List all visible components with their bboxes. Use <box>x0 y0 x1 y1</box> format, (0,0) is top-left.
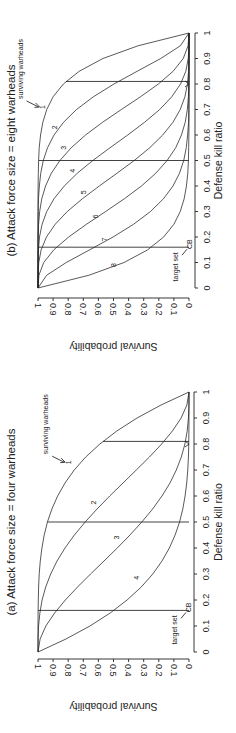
curve-label: 2 <box>51 125 58 129</box>
arrow-icon <box>182 249 187 255</box>
panel-b-curve-labels: 12345678 <box>39 105 117 267</box>
curve-label: 4 <box>69 169 76 173</box>
y-tick-label: 1 <box>33 664 43 669</box>
x-tick-label: 0.6 <box>201 490 211 503</box>
y-tick-label: 0.5 <box>108 664 118 677</box>
panel-b-xlabel: Defense kill ratio <box>212 122 224 200</box>
y-tick-label: 0.2 <box>154 664 164 677</box>
x-tick-label: 0.9 <box>201 412 211 425</box>
y-tick-label: 0.4 <box>123 664 133 677</box>
cb-annotation: CB <box>185 602 192 612</box>
x-tick-label: 1 <box>201 389 211 394</box>
panel-a-annotations: surviving warheadstarget setCB <box>42 394 192 645</box>
panel-b-ylabel: Survival probability <box>69 341 158 353</box>
y-tick-label: 0.1 <box>169 664 179 677</box>
panel-b-eight-warheads: (b) Attack force size = eight warheads D… <box>5 30 224 353</box>
y-tick-label: 0.8 <box>63 303 73 316</box>
x-tick-label: 0.9 <box>202 52 212 65</box>
panel-b-reference-lines <box>38 81 189 247</box>
x-tick-label: 0.3 <box>201 568 211 581</box>
y-tick-label: 0.3 <box>139 303 149 316</box>
x-tick-label: 0.4 <box>201 542 211 555</box>
surviving-warheads-annotation: surviving warheads <box>42 394 50 454</box>
curve-label: 8 <box>110 263 117 267</box>
target-set-annotation: target set <box>171 615 179 644</box>
y-tick-label: 0.6 <box>93 303 103 316</box>
panel-b-x-ticks: 00.10.20.30.40.50.60.70.80.91 <box>195 30 212 290</box>
curve-label: 3 <box>113 536 120 540</box>
panel-a-x-ticks: 00.10.20.30.40.50.60.70.80.91 <box>194 389 211 654</box>
panel-a-title: (a) Attack force size = four warheads <box>5 428 17 615</box>
panel-a-reference-lines <box>38 441 189 610</box>
y-tick-label: 0.7 <box>78 303 88 316</box>
y-tick-label: 0.1 <box>169 303 179 316</box>
x-tick-label: 0.7 <box>201 464 211 477</box>
curve-label: 3 <box>60 146 67 150</box>
x-tick-label: 0 <box>201 649 211 654</box>
x-tick-label: 0.8 <box>202 78 212 91</box>
x-tick-label: 0.7 <box>202 103 212 116</box>
panel-a-ylabel: Survival probability <box>69 701 158 713</box>
y-tick-label: 0.7 <box>78 664 88 677</box>
panel-b-title: (b) Attack force size = eight warheads <box>5 64 17 256</box>
panel-a-four-warheads: (a) Attack force size = four warheads De… <box>5 389 224 713</box>
panel-b-y-ticks: 00.10.20.30.40.50.60.70.80.91 <box>33 298 194 316</box>
curve-label: 6 <box>92 215 99 219</box>
x-tick-label: 0.1 <box>202 256 212 269</box>
x-tick-label: 0.4 <box>202 180 212 193</box>
y-tick-label: 0.8 <box>63 664 73 677</box>
x-tick-label: 0.8 <box>201 438 211 451</box>
x-tick-label: 0.2 <box>201 594 211 607</box>
x-tick-label: 0.2 <box>202 231 212 244</box>
y-tick-label: 0.2 <box>154 303 164 316</box>
figure: (b) Attack force size = eight warheads D… <box>0 0 236 733</box>
y-tick-label: 0 <box>184 303 194 308</box>
y-tick-label: 0.9 <box>48 664 58 677</box>
target-set-annotation: target set <box>172 252 180 281</box>
curve-label: 2 <box>90 500 97 504</box>
curve-label: 4 <box>133 576 140 580</box>
cb-annotation: CB <box>186 239 193 249</box>
curve-label: 5 <box>80 190 87 194</box>
y-tick-label: 0.3 <box>139 664 149 677</box>
panel-a-y-ticks: 00.10.20.30.40.50.60.70.80.91 <box>33 659 194 677</box>
y-tick-label: 0.4 <box>123 303 133 316</box>
x-tick-label: 0.6 <box>202 129 212 142</box>
panel-a-xlabel: Defense kill ratio <box>212 483 224 561</box>
arrow-icon <box>181 612 186 618</box>
x-tick-label: 0.1 <box>201 620 211 633</box>
x-tick-label: 0.3 <box>202 205 212 218</box>
y-tick-label: 0.5 <box>108 303 118 316</box>
y-tick-label: 0.9 <box>48 303 58 316</box>
x-tick-label: 0.5 <box>201 516 211 529</box>
y-tick-label: 1 <box>33 303 43 308</box>
curve-label: 7 <box>101 238 108 242</box>
surviving-warheads-annotation: surviving warheads <box>17 39 25 99</box>
x-tick-label: 0.5 <box>202 154 212 167</box>
y-tick-label: 0.6 <box>93 664 103 677</box>
y-tick-label: 0 <box>184 664 194 669</box>
x-tick-label: 1 <box>202 30 212 35</box>
x-tick-label: 0 <box>202 285 212 290</box>
